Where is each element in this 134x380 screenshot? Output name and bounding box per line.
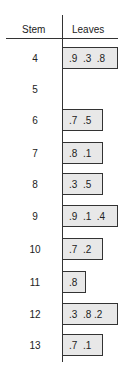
stem-value: 4 <box>20 53 50 64</box>
leaves-box: .7 .2 <box>62 238 103 260</box>
stem-value: 5 <box>20 84 50 95</box>
stem-value: 11 <box>20 277 50 288</box>
leaves-box: .7 .1 <box>62 334 103 356</box>
table-row: 11 .8 <box>0 271 134 295</box>
header-leaves: Leaves <box>72 24 104 35</box>
stem-value: 7 <box>20 148 50 159</box>
leaves-box: .3 .5 <box>62 173 103 195</box>
stem-value: 12 <box>20 309 50 320</box>
stem-value: 9 <box>20 211 50 222</box>
header-stem: Stem <box>22 24 45 35</box>
table-row: 4 .9 .3 .8 <box>0 47 134 71</box>
stem-value: 8 <box>20 179 50 190</box>
table-row: 13 .7 .1 <box>0 334 134 358</box>
table-row: 9 .9 .1 .4 <box>0 205 134 229</box>
table-row: 10 .7 .2 <box>0 238 134 262</box>
stem-value: 6 <box>20 115 50 126</box>
leaves-box: .9 .3 .8 <box>62 47 118 69</box>
leaves-box: .9 .1 .4 <box>62 205 118 227</box>
leaves-box: .8 .1 <box>62 142 103 164</box>
table-row: 6 .7 .5 <box>0 109 134 133</box>
leaves-box: .7 .5 <box>62 109 103 131</box>
table-row: 12 .3 .8 .2 <box>0 303 134 327</box>
stem-value: 13 <box>20 340 50 351</box>
table-row: 5 <box>0 78 134 102</box>
table-row: 8 .3 .5 <box>0 173 134 197</box>
leaves-box: .3 .8 .2 <box>62 303 118 325</box>
divider-header <box>6 38 118 39</box>
stem-value: 10 <box>20 244 50 255</box>
leaves-box: .8 <box>62 271 86 293</box>
table-row: 7 .8 .1 <box>0 142 134 166</box>
